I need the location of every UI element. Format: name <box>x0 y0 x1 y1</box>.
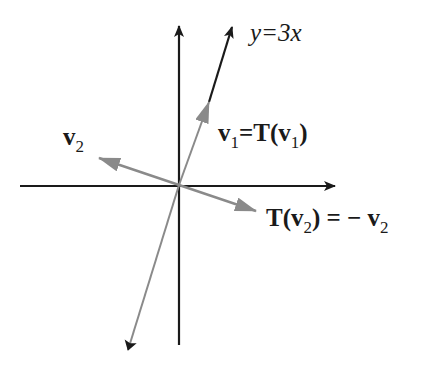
v1-main: v <box>218 119 231 146</box>
diagram-canvas: y=3x v2 v1=T(v1) T(v2) = − v2 <box>0 0 435 365</box>
v1-rhs-sub: 1 <box>291 133 300 152</box>
line-label: y=3x <box>250 20 302 45</box>
vector-v2 <box>99 158 179 185</box>
v1-rhs-main: v <box>278 119 291 146</box>
v1-close: ) <box>299 119 307 146</box>
tv2-rhs-sub: 2 <box>380 218 389 237</box>
tv2-label: T(v2) = − v2 <box>266 205 389 230</box>
line-y3x-upper <box>209 27 232 102</box>
v1-T: T( <box>253 119 278 146</box>
tv2-sub: 2 <box>304 218 313 237</box>
tv2-T: T( <box>266 204 291 231</box>
tv2-main: v <box>291 204 304 231</box>
v2-sub: 2 <box>76 137 85 156</box>
vector-tv2 <box>179 185 256 211</box>
v1-eq: = <box>239 119 253 146</box>
tv2-eq: = − <box>320 204 367 231</box>
v1-sub: 1 <box>231 133 240 152</box>
v1-label: v1=T(v1) <box>218 120 308 145</box>
tv2-rhs-main: v <box>368 204 381 231</box>
line-y3x-lower <box>128 185 179 350</box>
diagram-svg <box>0 0 435 365</box>
v2-label: v2 <box>63 124 84 149</box>
vector-v1 <box>179 102 209 185</box>
v2-main: v <box>63 123 76 150</box>
